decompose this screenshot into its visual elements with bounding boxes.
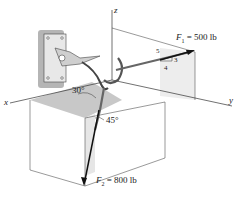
z-axis-label: z: [114, 6, 118, 15]
pin-icon: [59, 55, 65, 61]
force-f1-label: F1 = 500 lb: [176, 33, 217, 44]
arrowhead-icon: [81, 177, 87, 186]
force-f2-label: F2 = 800 lb: [96, 176, 137, 187]
y-axis-label: y: [229, 96, 233, 105]
angle-30-label: 30°: [72, 86, 85, 95]
slope-hypotenuse-label: 5: [156, 48, 160, 55]
slope-rise-label: 3: [174, 57, 178, 64]
slope-run-label: 4: [164, 65, 168, 72]
box-edge-right: [85, 102, 165, 186]
hook-curve: [104, 58, 122, 83]
box-front-shade: [85, 114, 95, 176]
angle-45-label: 45°: [106, 116, 119, 125]
diagram-drawing: [0, 0, 245, 199]
x-axis-label: x: [4, 98, 8, 107]
force-diagram: z x y F1 = 500 lb F2 = 800 lb 5 3 4 30° …: [0, 0, 245, 199]
